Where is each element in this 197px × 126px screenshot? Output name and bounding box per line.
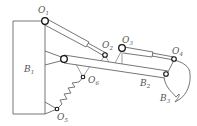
pin-o1 [42, 18, 49, 25]
label-b1: B1 [23, 64, 34, 75]
pin-o5 [55, 107, 59, 111]
bucket-b3 [164, 60, 190, 102]
frame-b1 [13, 21, 64, 114]
cylinder-o1-o2 [43, 19, 106, 56]
spring-o5-o6 [57, 77, 83, 109]
label-o1: O1 [38, 5, 49, 16]
pin-o2 [103, 53, 108, 58]
mechanism-diagram: O1 O2 O3 O4 O5 O6 B1 B2 B3 [0, 0, 197, 126]
label-o2: O2 [102, 40, 113, 51]
label-o3: O3 [122, 35, 133, 46]
pin-o4 [172, 57, 177, 62]
cylinder-o3-o4 [123, 47, 174, 60]
pin-o3 [119, 45, 126, 52]
pin-boom-base [61, 56, 68, 63]
label-o6: O6 [88, 75, 99, 86]
pin-o6 [81, 75, 85, 79]
pin-boom-end [164, 72, 169, 77]
label-o5: O5 [57, 112, 68, 123]
label-b2: B2 [139, 78, 151, 89]
label-b3: B3 [159, 93, 171, 104]
label-o4: O4 [172, 46, 183, 57]
